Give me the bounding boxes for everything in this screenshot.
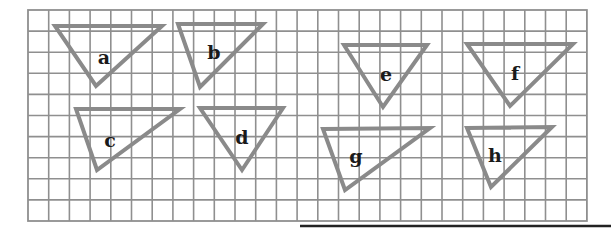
triangle-label: g	[349, 145, 362, 167]
triangle-label: b	[207, 41, 220, 63]
triangle-label: h	[488, 144, 502, 166]
triangle-label: e	[380, 63, 392, 85]
triangle-b: b	[178, 24, 263, 87]
triangle-d: d	[200, 108, 283, 170]
triangle-label: a	[98, 46, 110, 68]
triangle-a: a	[55, 26, 162, 86]
triangle-e: e	[344, 45, 427, 107]
grid-paper	[28, 10, 587, 221]
triangle-outline	[76, 109, 180, 170]
triangles-group: abcdefgh	[55, 24, 573, 190]
triangle-c: c	[76, 109, 180, 170]
triangle-label: d	[235, 126, 248, 148]
triangle-grid-figure: abcdefgh	[0, 0, 611, 228]
triangle-label: c	[104, 129, 116, 151]
